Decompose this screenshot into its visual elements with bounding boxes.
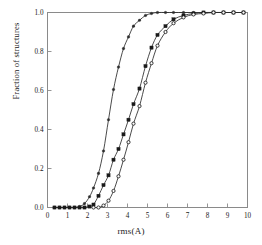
x-tick-label: 3 xyxy=(106,212,110,220)
marker-open-circle xyxy=(107,199,110,202)
marker-filled-circle xyxy=(138,19,141,22)
marker-filled-square xyxy=(144,65,147,68)
marker-filled-circle xyxy=(127,36,130,39)
x-tick-label: 0 xyxy=(46,212,50,220)
y-tick-label: 0.4 xyxy=(35,126,44,134)
marker-open-circle xyxy=(122,158,125,161)
marker-open-circle xyxy=(132,122,135,125)
marker-open-circle xyxy=(112,189,115,192)
marker-filled-circle xyxy=(88,195,91,198)
axes-frame xyxy=(48,13,248,208)
y-tick-label: 0.8 xyxy=(35,48,44,56)
x-tick-label: 10 xyxy=(244,212,252,220)
marker-filled-square xyxy=(164,25,167,28)
marker-filled-square xyxy=(63,206,66,209)
marker-filled-circle xyxy=(122,47,125,50)
marker-filled-circle xyxy=(97,172,100,175)
x-tick-label: 9 xyxy=(226,212,230,220)
marker-filled-square xyxy=(73,206,76,209)
marker-filled-square xyxy=(107,174,110,177)
marker-filled-circle xyxy=(150,12,153,15)
marker-open-circle xyxy=(156,44,159,47)
x-tick-label: 6 xyxy=(166,212,170,220)
plot-frame xyxy=(48,13,248,208)
series-line xyxy=(55,12,244,207)
y-tick-label: 1.0 xyxy=(35,9,44,17)
figure-container: 012345678910 0.00.20.40.60.81.0 Fraction… xyxy=(0,0,262,245)
marker-open-circle xyxy=(127,141,130,144)
marker-filled-square xyxy=(78,206,81,209)
x-tick-label: 5 xyxy=(146,212,150,220)
marker-filled-square xyxy=(132,103,135,106)
marker-filled-circle xyxy=(182,11,185,14)
series-line xyxy=(55,12,244,207)
marker-open-circle xyxy=(232,11,235,14)
marker-open-circle xyxy=(144,81,147,84)
x-axis-ticks: 012345678910 xyxy=(46,204,252,221)
marker-filled-circle xyxy=(172,11,175,14)
marker-open-circle xyxy=(172,22,175,25)
marker-open-circle xyxy=(222,11,225,14)
y-tick-label: 0.2 xyxy=(35,165,44,173)
marker-filled-circle xyxy=(92,187,95,190)
marker-filled-circle xyxy=(112,88,115,91)
marker-filled-circle xyxy=(156,11,159,14)
marker-filled-circle xyxy=(102,150,105,153)
series-curve-2 xyxy=(53,11,245,209)
x-tick-label: 8 xyxy=(206,212,210,220)
marker-filled-square xyxy=(138,87,141,90)
x-tick-label: 7 xyxy=(186,212,190,220)
chart-canvas: 012345678910 0.00.20.40.60.81.0 xyxy=(0,0,262,245)
marker-filled-square xyxy=(172,18,175,21)
marker-filled-square xyxy=(97,194,100,197)
marker-filled-circle xyxy=(107,118,110,121)
marker-filled-square xyxy=(156,33,159,36)
marker-filled-circle xyxy=(164,11,167,14)
marker-filled-square xyxy=(53,206,56,209)
marker-filled-circle xyxy=(132,25,135,28)
marker-filled-square xyxy=(122,133,125,136)
marker-open-circle xyxy=(117,175,120,178)
marker-filled-circle xyxy=(117,66,120,69)
x-tick-label: 2 xyxy=(86,212,90,220)
y-axis-ticks: 0.00.20.40.60.81.0 xyxy=(35,9,52,212)
marker-open-circle xyxy=(202,12,205,15)
marker-filled-circle xyxy=(144,14,147,17)
series-curve-3 xyxy=(92,11,245,209)
marker-open-circle xyxy=(97,206,100,209)
marker-filled-square xyxy=(88,205,91,208)
marker-filled-square xyxy=(117,147,120,150)
marker-filled-circle xyxy=(83,202,86,205)
marker-open-circle xyxy=(92,206,95,209)
marker-filled-square xyxy=(83,206,86,209)
marker-open-circle xyxy=(150,62,153,65)
marker-open-circle xyxy=(164,30,167,33)
series-line xyxy=(94,12,244,207)
marker-filled-square xyxy=(127,118,130,121)
marker-open-circle xyxy=(212,11,215,14)
marker-filled-square xyxy=(112,158,115,161)
data-series-group xyxy=(53,11,245,209)
marker-open-circle xyxy=(138,105,141,108)
marker-open-circle xyxy=(182,16,185,19)
series-curve-1 xyxy=(53,11,245,209)
marker-filled-square xyxy=(68,206,71,209)
y-tick-label: 0.0 xyxy=(35,204,44,212)
marker-filled-square xyxy=(58,206,61,209)
marker-open-circle xyxy=(102,204,105,207)
marker-open-circle xyxy=(242,11,245,14)
x-tick-label: 4 xyxy=(126,212,130,220)
y-tick-label: 0.6 xyxy=(35,87,44,95)
marker-filled-square xyxy=(102,183,105,186)
marker-filled-square xyxy=(150,46,153,49)
x-tick-label: 1 xyxy=(66,212,70,220)
marker-open-circle xyxy=(192,13,195,16)
